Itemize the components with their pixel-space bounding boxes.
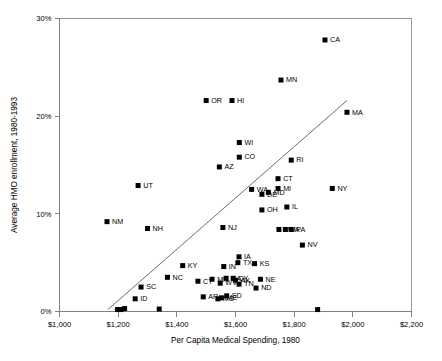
- data-point-marker: [259, 207, 264, 212]
- data-point-label: MA: [352, 108, 363, 117]
- data-point-marker: [204, 98, 209, 103]
- data-point-marker: [289, 227, 294, 232]
- scatter-plot-svg: CAMNORHIMAWICORIAZCTMIUTNYWADEMDILOHNMNH…: [0, 0, 442, 361]
- y-tick-label: 20%: [36, 112, 51, 121]
- data-point-marker: [217, 164, 222, 169]
- data-point-marker: [105, 219, 110, 224]
- data-point-marker: [266, 190, 271, 195]
- data-point-marker: [221, 264, 226, 269]
- data-point-marker: [122, 306, 127, 311]
- y-axis-title: Average HMO enrollment, 1980-1993: [10, 97, 19, 233]
- data-point-marker: [157, 307, 162, 312]
- data-point-label: HI: [237, 96, 244, 105]
- data-point-label: RI: [296, 155, 303, 164]
- data-point-label: MD: [273, 188, 284, 197]
- data-point-marker: [220, 225, 225, 230]
- data-point-marker: [276, 176, 281, 181]
- data-point-marker: [237, 254, 242, 259]
- data-point-marker: [237, 155, 242, 160]
- data-point-label: KY: [188, 261, 198, 270]
- data-point-marker: [249, 187, 254, 192]
- data-point-marker: [237, 140, 242, 145]
- data-point-marker: [180, 263, 185, 268]
- data-point-label: NE: [266, 275, 276, 284]
- data-point-marker: [133, 296, 138, 301]
- x-tick-label: $2,000: [341, 320, 364, 329]
- data-point-marker: [215, 296, 220, 301]
- data-point-marker: [201, 294, 206, 299]
- data-point-label: SC: [146, 282, 156, 291]
- axis-titles: Per Capita Medical Spending, 1980Average…: [10, 97, 300, 345]
- data-point-marker: [322, 37, 327, 42]
- x-tick-label: $1,200: [107, 320, 130, 329]
- data-point-marker: [278, 78, 283, 83]
- data-point-marker: [252, 261, 257, 266]
- data-point-marker: [289, 158, 294, 163]
- data-point-marker: [284, 205, 289, 210]
- data-point-label: IL: [292, 202, 298, 211]
- data-point-label: PA: [296, 225, 305, 234]
- data-point-label: UT: [143, 181, 153, 190]
- y-tick-label: 10%: [36, 210, 51, 219]
- data-point-label: NY: [337, 184, 347, 193]
- data-point-label: WV: [225, 278, 237, 287]
- data-point-label: OH: [267, 205, 278, 214]
- data-point-marker: [300, 243, 305, 248]
- x-tick-label: $1,000: [48, 320, 71, 329]
- data-point-label: CA: [330, 35, 340, 44]
- data-point-label: MN: [286, 75, 297, 84]
- y-tick-label: 30%: [36, 14, 51, 23]
- data-point-label: NV: [307, 240, 317, 249]
- data-point-marker: [344, 110, 349, 115]
- data-point-label: IN: [229, 262, 236, 271]
- data-point-label: CO: [244, 152, 255, 161]
- data-point-label: CT: [283, 174, 293, 183]
- data-point-marker: [229, 98, 234, 103]
- x-tick-label: $1,400: [165, 320, 188, 329]
- x-tick-label: $1,600: [224, 320, 247, 329]
- data-point-marker: [235, 260, 240, 265]
- data-point-label: TX: [243, 258, 252, 267]
- x-tick-label: $1,800: [283, 320, 306, 329]
- data-point-marker: [237, 282, 242, 287]
- data-point-label: NC: [173, 273, 183, 282]
- data-point-label: TN: [244, 279, 254, 288]
- data-point-label: NM: [112, 217, 123, 226]
- scatter-chart-container: CAMNORHIMAWICORIAZCTMIUTNYWADEMDILOHNMNH…: [0, 0, 442, 361]
- data-point-label: NJ: [228, 223, 237, 232]
- data-point-label: ND: [261, 283, 271, 292]
- data-point-label: CT: [203, 277, 213, 286]
- data-point-marker: [139, 285, 144, 290]
- x-axis-title: Per Capita Medical Spending, 1980: [171, 336, 300, 345]
- data-point-marker: [259, 192, 264, 197]
- data-point-marker: [276, 227, 281, 232]
- data-point-marker: [283, 227, 288, 232]
- data-point-label: ID: [140, 294, 147, 303]
- data-point-marker: [195, 279, 200, 284]
- data-point-label: AZ: [224, 162, 234, 171]
- data-point-marker: [258, 277, 263, 282]
- data-point-label: MS: [223, 294, 234, 303]
- data-point-marker: [254, 286, 259, 291]
- data-point-marker: [218, 281, 223, 286]
- data-point-marker: [165, 275, 170, 280]
- data-point-marker: [136, 183, 141, 188]
- data-point-marker: [330, 186, 335, 191]
- data-point-label: KS: [260, 259, 270, 268]
- data-point-marker: [145, 226, 150, 231]
- y-tick-label: 0%: [41, 307, 52, 316]
- data-point-label: NH: [153, 224, 163, 233]
- data-point-label: WI: [244, 138, 253, 147]
- data-points: CAMNORHIMAWICORIAZCTMIUTNYWADEMDILOHNMNH…: [105, 35, 364, 312]
- x-tick-label: $2,200: [400, 320, 423, 329]
- data-point-marker: [315, 307, 320, 312]
- data-point-label: OR: [211, 96, 222, 105]
